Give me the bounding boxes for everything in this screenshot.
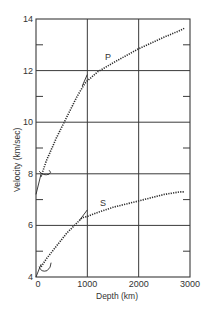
- x-axis-title: Depth (km): [96, 291, 138, 301]
- x-tick-label: 3000: [180, 279, 200, 289]
- x-tick-label: 2000: [129, 279, 149, 289]
- y-tick-label: 8: [28, 169, 33, 179]
- plot-frame: [36, 19, 190, 277]
- p-curve-label: P: [105, 52, 111, 62]
- series-p-line: [82, 75, 87, 87]
- y-tick-label: 12: [23, 66, 33, 76]
- x-tick-label: 0: [35, 279, 40, 289]
- grid-lines: [36, 19, 190, 277]
- plot-border: [36, 19, 190, 277]
- s-low-velocity-loop: [39, 263, 51, 272]
- axis-ticks: 4681012140100020003000: [23, 14, 200, 289]
- y-tick-label: 4: [28, 272, 33, 282]
- y-axis-title: Velocity (km/sec): [12, 128, 22, 192]
- y-tick-label: 10: [23, 117, 33, 127]
- y-tick-label: 6: [28, 220, 33, 230]
- series-s-line: [41, 192, 185, 267]
- series-s-line: [36, 264, 41, 277]
- data-series: [36, 28, 185, 277]
- velocity-depth-chart: 4681012140100020003000 P S Depth (km) Ve…: [0, 0, 213, 317]
- series-p-line: [41, 28, 185, 176]
- s-curve-label: S: [100, 198, 106, 208]
- series-s-line: [80, 210, 88, 220]
- x-tick-label: 1000: [77, 279, 97, 289]
- y-tick-label: 14: [23, 14, 33, 24]
- series-p-line: [36, 174, 41, 195]
